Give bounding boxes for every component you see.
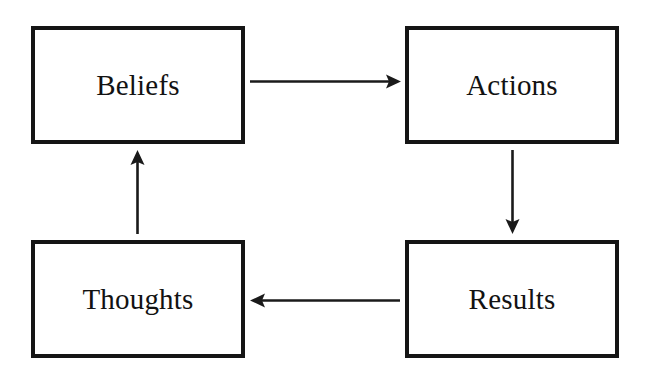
- arrow-beliefs-to-actions: [250, 75, 401, 89]
- arrow-results-to-thoughts: [250, 294, 400, 308]
- node-beliefs: Beliefs: [31, 26, 245, 144]
- node-results: Results: [405, 240, 619, 358]
- node-actions: Actions: [405, 26, 619, 144]
- arrow-actions-to-results: [506, 150, 520, 234]
- node-thoughts: Thoughts: [31, 240, 245, 358]
- arrow-thoughts-to-beliefs: [131, 150, 145, 234]
- node-actions-label: Actions: [466, 71, 558, 100]
- diagram-canvas: Beliefs Actions Results Thoughts: [0, 0, 652, 384]
- node-beliefs-label: Beliefs: [96, 71, 180, 100]
- node-thoughts-label: Thoughts: [82, 285, 193, 314]
- node-results-label: Results: [469, 285, 556, 314]
